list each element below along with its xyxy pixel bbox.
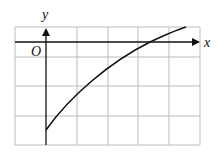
axes xyxy=(15,34,194,145)
graph-diagram: y x O xyxy=(0,0,217,157)
y-axis-label: y xyxy=(40,7,49,22)
origin-label: O xyxy=(31,44,41,59)
x-axis-arrow-icon xyxy=(192,38,200,46)
x-axis-label: x xyxy=(203,35,211,50)
grid xyxy=(15,27,200,145)
y-axis-arrow-icon xyxy=(42,28,50,36)
